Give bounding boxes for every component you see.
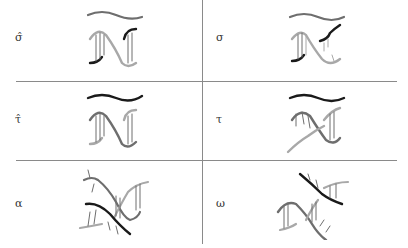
label-omega: ω — [216, 198, 225, 209]
dna-omega-icon — [276, 168, 364, 240]
dna-hat-tau-icon — [80, 86, 150, 156]
dna-alpha-icon — [78, 168, 160, 240]
dna-hat-sigma-icon — [80, 5, 150, 75]
dna-sigma-icon — [284, 5, 354, 75]
dna-tau-icon — [284, 86, 354, 156]
label-tau-hat: τ̂ — [15, 114, 21, 125]
label-alpha: α — [15, 198, 22, 209]
label-sigma-hat: σ̂ — [15, 32, 23, 43]
label-tau: τ — [216, 114, 222, 125]
label-sigma: σ — [216, 32, 224, 43]
column-divider — [202, 0, 203, 244]
row-divider-1 — [16, 81, 397, 82]
row-divider-2 — [16, 160, 397, 161]
